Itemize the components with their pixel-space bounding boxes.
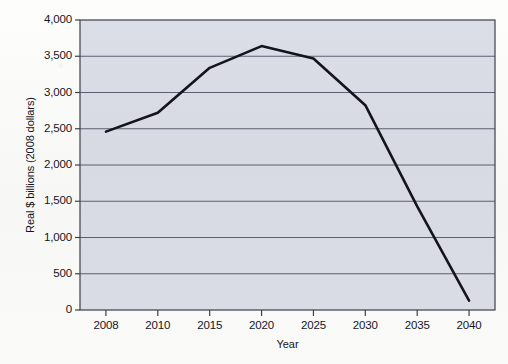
plot-area	[0, 0, 508, 364]
line-chart-figure: Real $ billions (2008 dollars) 05001,000…	[0, 0, 508, 364]
x-axis-title: Year	[80, 338, 495, 350]
x-axis-tick-label: 2040	[439, 319, 499, 332]
y-axis-ticks	[75, 20, 80, 310]
x-axis-tick-labels: 20082010201520202025203020352040	[0, 319, 508, 335]
x-axis-ticks	[106, 310, 469, 316]
